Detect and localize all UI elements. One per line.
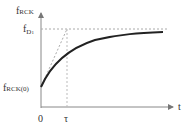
origin-label: 0 <box>38 114 43 124</box>
initial-value-label: fRCK(0) <box>3 83 29 93</box>
x-axis-label: t <box>178 102 181 112</box>
tau-label: τ <box>64 114 68 124</box>
asymptote-label: fD1 <box>23 24 34 34</box>
exponential-curve <box>41 32 163 87</box>
y-axis-label: fRCK <box>16 6 34 16</box>
diagram-canvas <box>0 0 192 126</box>
